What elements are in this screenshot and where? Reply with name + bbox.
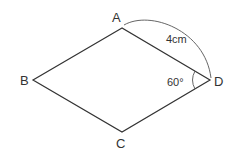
side-length-arc (124, 20, 211, 78)
angle-arc (193, 71, 196, 89)
vertex-label-c: C (116, 136, 125, 151)
vertex-label-a: A (112, 10, 121, 25)
rhombus-diagram: A B C D 4cm 60° (0, 0, 241, 165)
angle-label: 60° (167, 76, 184, 88)
vertex-label-b: B (20, 73, 29, 88)
vertex-label-d: D (214, 74, 223, 89)
side-length-label: 4cm (166, 33, 187, 45)
